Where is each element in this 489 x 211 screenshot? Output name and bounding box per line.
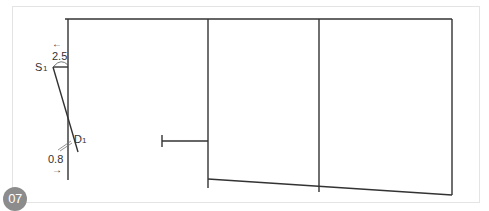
pattern-drawing: ← 2.5 S 1 D 1 0.8 → — [0, 0, 489, 211]
point-label-d: D — [74, 133, 82, 145]
hem-line — [208, 179, 452, 195]
point-label-d-sub: 1 — [82, 136, 87, 145]
point-label-s-sub: 1 — [43, 64, 48, 73]
arrow-right-icon: → — [52, 164, 62, 175]
pointer-line-1 — [58, 141, 71, 150]
measure-label-top: 2.5 — [52, 50, 67, 62]
point-label-s: S — [35, 61, 42, 73]
arrow-left-icon: ← — [52, 38, 62, 49]
step-number-badge: 07 — [3, 187, 27, 211]
measure-arc-top — [54, 62, 68, 66]
